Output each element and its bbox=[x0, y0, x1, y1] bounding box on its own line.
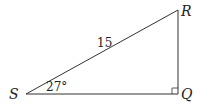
hypotenuse-length-label: 15 bbox=[97, 36, 112, 50]
angle-s-label: 27° bbox=[46, 80, 67, 94]
vertex-label-r: R bbox=[180, 3, 192, 19]
vertex-label-s: S bbox=[9, 86, 19, 102]
triangle-diagram: S Q R 15 27° bbox=[0, 0, 200, 107]
right-angle-marker bbox=[172, 88, 178, 94]
vertex-label-q: Q bbox=[181, 86, 193, 102]
